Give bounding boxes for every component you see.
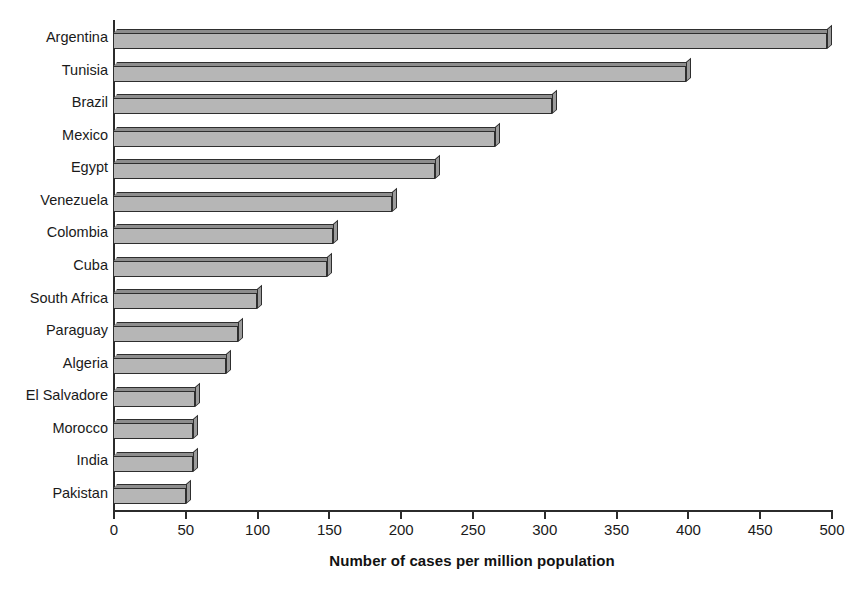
bar-side-face <box>226 350 231 374</box>
bar-algeria <box>113 354 226 374</box>
bar-egypt <box>113 159 435 179</box>
x-tick-label: 450 <box>730 521 790 538</box>
bar-side-face <box>193 448 198 472</box>
bar-front-face <box>113 293 257 309</box>
category-label: Cuba <box>73 257 108 273</box>
category-label: Algeria <box>63 355 108 371</box>
category-label: Mexico <box>62 127 108 143</box>
bar-south-africa <box>113 289 257 309</box>
bar-side-face <box>686 57 691 81</box>
category-label: El Salvadore <box>26 387 108 403</box>
bar-front-face <box>113 391 195 407</box>
bar-side-face <box>435 155 440 179</box>
bar-mexico <box>113 127 495 147</box>
x-tick-mark <box>687 510 689 519</box>
plot-area <box>113 22 831 510</box>
bar-colombia <box>113 224 333 244</box>
bar-india <box>113 452 193 472</box>
category-label: Tunisia <box>62 62 108 78</box>
x-axis-title: Number of cases per million population <box>113 552 831 569</box>
bar-pakistan <box>113 484 186 504</box>
x-tick-mark <box>616 510 618 519</box>
bar-front-face <box>113 33 827 49</box>
x-tick-mark <box>544 510 546 519</box>
bar-side-face <box>827 25 832 49</box>
bar-front-face <box>113 358 226 374</box>
category-label: India <box>77 452 108 468</box>
x-tick-label: 350 <box>587 521 647 538</box>
x-tick-label: 100 <box>228 521 288 538</box>
bar-paraguay <box>113 322 238 342</box>
category-label: Egypt <box>71 159 108 175</box>
bar-row <box>113 185 831 217</box>
x-tick-mark <box>472 510 474 519</box>
bar-front-face <box>113 423 193 439</box>
bar-row <box>113 87 831 119</box>
x-tick-label: 150 <box>299 521 359 538</box>
x-tick-label: 50 <box>156 521 216 538</box>
bar-row <box>113 347 831 379</box>
bar-side-face <box>257 285 262 309</box>
bar-chart: ArgentinaTunisiaBrazilMexicoEgyptVenezue… <box>0 0 868 594</box>
bar-tunisia <box>113 62 686 82</box>
bar-row <box>113 55 831 87</box>
bar-row <box>113 217 831 249</box>
x-tick-label: 500 <box>802 521 862 538</box>
x-tick-label: 250 <box>443 521 503 538</box>
bar-front-face <box>113 326 238 342</box>
x-tick-label: 0 <box>84 521 144 538</box>
bar-front-face <box>113 196 392 212</box>
bar-brazil <box>113 94 552 114</box>
x-tick-label: 400 <box>658 521 718 538</box>
category-label: Paraguay <box>46 322 108 338</box>
bar-front-face <box>113 488 186 504</box>
category-label: Venezuela <box>40 192 108 208</box>
category-axis-labels: ArgentinaTunisiaBrazilMexicoEgyptVenezue… <box>0 22 110 510</box>
x-tick-label: 200 <box>371 521 431 538</box>
bar-venezuela <box>113 192 392 212</box>
category-label: Colombia <box>47 224 108 240</box>
category-label: Brazil <box>72 94 108 110</box>
x-tick-mark <box>831 510 833 519</box>
bar-side-face <box>495 122 500 146</box>
bar-front-face <box>113 98 552 114</box>
x-tick-mark <box>759 510 761 519</box>
bar-front-face <box>113 131 495 147</box>
bar-morocco <box>113 419 193 439</box>
category-label: Morocco <box>52 420 108 436</box>
x-tick-mark <box>113 510 115 519</box>
bar-front-face <box>113 66 686 82</box>
bar-row <box>113 477 831 509</box>
bar-side-face <box>195 383 200 407</box>
bar-row <box>113 152 831 184</box>
bar-row <box>113 412 831 444</box>
bar-front-face <box>113 163 435 179</box>
bar-side-face <box>333 220 338 244</box>
bar-row <box>113 282 831 314</box>
bar-argentina <box>113 29 827 49</box>
bar-el-salvadore <box>113 387 195 407</box>
bar-row <box>113 250 831 282</box>
bar-side-face <box>193 415 198 439</box>
bar-front-face <box>113 456 193 472</box>
category-label: Argentina <box>46 29 108 45</box>
bar-side-face <box>238 318 243 342</box>
bar-cuba <box>113 257 327 277</box>
bar-row <box>113 120 831 152</box>
x-tick-mark <box>328 510 330 519</box>
bar-side-face <box>327 253 332 277</box>
x-tick-label: 300 <box>515 521 575 538</box>
x-tick-mark <box>185 510 187 519</box>
category-label: South Africa <box>30 290 108 306</box>
bar-row <box>113 380 831 412</box>
bar-side-face <box>392 187 397 211</box>
bar-row <box>113 22 831 54</box>
bar-row <box>113 315 831 347</box>
x-tick-mark <box>400 510 402 519</box>
bar-front-face <box>113 261 327 277</box>
category-label: Pakistan <box>52 485 108 501</box>
x-tick-mark <box>257 510 259 519</box>
bar-side-face <box>186 480 191 504</box>
bar-front-face <box>113 228 333 244</box>
bar-side-face <box>552 90 557 114</box>
